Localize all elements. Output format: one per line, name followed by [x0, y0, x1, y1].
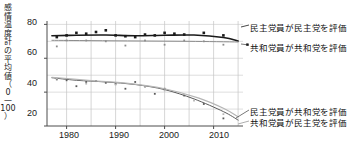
data-point-marker: [164, 90, 166, 92]
data-point-marker: [164, 44, 166, 46]
data-point-marker: [203, 40, 205, 42]
data-point-marker: [183, 33, 186, 36]
data-point-marker: [124, 35, 127, 38]
data-point-marker: [144, 86, 146, 88]
chart-plot-area: [0, 0, 360, 155]
data-point-marker: [134, 81, 136, 83]
data-point-marker: [85, 40, 87, 42]
data-point-marker: [154, 34, 157, 37]
legend-marker-rep-rates-rep: [246, 43, 248, 45]
data-point-marker: [85, 32, 88, 35]
data-point-marker: [56, 46, 58, 48]
data-point-marker: [125, 88, 127, 90]
data-point-marker: [76, 85, 78, 87]
data-point-marker: [154, 93, 156, 95]
chart-root: 感 情 温 度 計 の 平 均 値 （ 0 — 100 ） 80 60 40 2…: [0, 0, 360, 155]
data-point-marker: [56, 36, 59, 39]
data-point-marker: [134, 36, 137, 39]
data-point-marker: [56, 78, 58, 80]
data-point-marker: [222, 34, 225, 37]
data-point-marker: [75, 32, 78, 35]
data-point-marker: [95, 31, 98, 34]
data-point-marker: [85, 81, 87, 83]
data-point-marker: [183, 40, 185, 42]
data-point-marker: [203, 32, 206, 35]
data-point-marker: [66, 79, 68, 81]
data-point-marker: [114, 34, 117, 37]
data-point-marker: [173, 32, 176, 35]
data-point-marker: [144, 33, 147, 36]
data-point-marker: [223, 113, 225, 115]
data-point-marker: [163, 32, 166, 35]
data-point-marker: [115, 84, 117, 86]
legend-leader-rep-rates-dem: [238, 121, 249, 124]
data-point-marker: [105, 40, 107, 42]
data-point-marker: [223, 44, 225, 46]
data-point-marker: [223, 117, 225, 119]
series-trendline: [52, 78, 238, 120]
data-point-marker: [105, 29, 108, 32]
data-point-marker: [203, 103, 205, 105]
data-point-marker: [125, 45, 127, 47]
data-point-marker: [85, 83, 87, 85]
data-point-marker: [66, 40, 68, 42]
data-point-marker: [65, 34, 68, 37]
data-point-marker: [144, 40, 146, 42]
data-point-marker: [193, 100, 195, 102]
series-trendline: [52, 77, 238, 116]
data-point-marker: [183, 95, 185, 97]
legend-leader-dem-rates-dem: [241, 25, 249, 27]
